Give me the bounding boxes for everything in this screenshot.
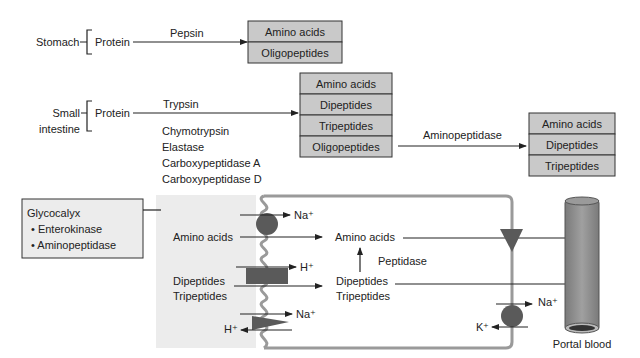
- final-product: Amino acids: [542, 118, 602, 130]
- small-intestine-label: Small: [52, 107, 80, 119]
- svg-text:intestine: intestine: [39, 123, 80, 135]
- svg-text:Na⁺: Na⁺: [294, 209, 314, 221]
- lumen-area: [156, 195, 256, 348]
- intracellular-processing: Amino acids Peptidase Dipeptides Tripept…: [335, 229, 574, 302]
- intestine-product: Amino acids: [316, 78, 376, 90]
- lumen-dipeptides: Dipeptides: [173, 275, 225, 287]
- intestine-product: Dipeptides: [320, 99, 372, 111]
- glycocalyx-title: Glycocalyx: [27, 207, 81, 219]
- small-intestine-section: Small intestine Protein Trypsin Chymotry…: [39, 73, 615, 185]
- peptidase-label: Peptidase: [378, 255, 427, 267]
- stomach-product: Amino acids: [265, 26, 325, 38]
- portal-blood-vessel: Portal blood: [553, 197, 612, 350]
- svg-text:H⁺: H⁺: [300, 261, 314, 273]
- transporter-rect-icon: [246, 268, 288, 284]
- enzyme-label: Elastase: [162, 141, 204, 153]
- lumen-amino-acids: Amino acids: [173, 231, 233, 243]
- cell-tripeptides: Tripeptides: [336, 290, 391, 302]
- basolateral-transporter-icon: [500, 229, 523, 252]
- enzyme-label: Carboxypeptidase D: [162, 173, 262, 185]
- final-product: Dipeptides: [546, 139, 598, 151]
- intestine-product: Tripeptides: [319, 120, 374, 132]
- intestine-substrate: Protein: [95, 107, 130, 119]
- transporter-circle-icon: [256, 213, 278, 235]
- glycocalyx-item: • Enterokinase: [31, 223, 102, 235]
- cell-amino-acids: Amino acids: [335, 231, 395, 243]
- stomach-product: Oligopeptides: [261, 47, 329, 59]
- intestine-product: Oligopeptides: [312, 141, 380, 153]
- pepsin-label: Pepsin: [170, 27, 204, 39]
- lumen-tripeptides: Tripeptides: [173, 290, 228, 302]
- transporter-triangle-icon: [252, 316, 289, 330]
- stomach-substrate: Protein: [95, 36, 130, 48]
- svg-text:Na⁺: Na⁺: [538, 296, 558, 308]
- stomach-section: Stomach Protein Pepsin Amino acids Oligo…: [36, 21, 342, 63]
- stomach-bracket: [80, 30, 92, 54]
- enzyme-label: Chymotrypsin: [162, 125, 229, 137]
- svg-text:H⁺: H⁺: [224, 323, 238, 335]
- svg-text:K⁺: K⁺: [476, 321, 489, 333]
- stomach-label: Stomach: [36, 36, 79, 48]
- protein-digestion-diagram: Stomach Protein Pepsin Amino acids Oligo…: [0, 0, 640, 358]
- glycocalyx-box: Glycocalyx • Enterokinase • Aminopeptida…: [22, 199, 161, 258]
- aminopeptidase-label: Aminopeptidase: [423, 129, 502, 141]
- enzyme-label: Carboxypeptidase A: [162, 157, 261, 169]
- enzyme-label: Trypsin: [163, 98, 199, 110]
- intestine-bracket: [81, 101, 92, 131]
- portal-blood-label: Portal blood: [553, 338, 612, 350]
- svg-text:Na⁺: Na⁺: [296, 308, 316, 320]
- glycocalyx-item: • Aminopeptidase: [31, 239, 116, 251]
- cell-dipeptides: Dipeptides: [336, 275, 388, 287]
- pump-circle-icon: [501, 305, 523, 327]
- final-product: Tripeptides: [545, 160, 600, 172]
- na-k-pump: Na⁺ K⁺: [476, 296, 558, 333]
